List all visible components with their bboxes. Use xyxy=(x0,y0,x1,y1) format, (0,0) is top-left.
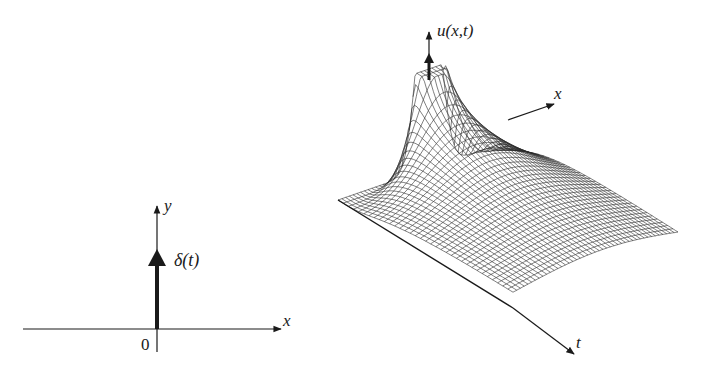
impulse-arrowhead-icon xyxy=(148,249,166,266)
mesh-line-t xyxy=(348,74,513,206)
t-axis-label: t xyxy=(576,333,582,352)
mesh-line-x xyxy=(466,130,641,239)
mesh-line-x xyxy=(481,144,656,236)
mesh-line-x xyxy=(436,67,611,247)
x-axis-3d xyxy=(508,104,554,120)
u-axis-label: u(x,t) xyxy=(437,21,474,40)
t-axis xyxy=(513,308,574,354)
mesh-line-x xyxy=(488,148,663,234)
origin-label: 0 xyxy=(141,335,150,354)
x-axis-label: x xyxy=(282,311,291,330)
mesh-line-x xyxy=(372,187,547,275)
surface-diagram: u(x,t) x t xyxy=(338,21,678,354)
mesh-line-x xyxy=(379,177,554,271)
mesh-line-x xyxy=(447,86,622,244)
mesh-line-t xyxy=(359,105,524,212)
y-axis-label: y xyxy=(162,196,172,215)
mesh-line-x xyxy=(361,192,536,280)
x-axis-3d-label: x xyxy=(553,84,562,103)
u-impulse-arrowhead-icon xyxy=(424,53,434,63)
mesh-line-x xyxy=(383,171,558,268)
surface-mesh xyxy=(338,65,678,308)
figure-canvas: x y 0 δ(t) u(x,t) x t xyxy=(0,0,701,371)
impulse-label: δ(t) xyxy=(174,250,199,271)
mesh-line-t xyxy=(338,65,503,200)
mesh-line-x xyxy=(349,196,524,286)
delta-diagram: x y 0 δ(t) xyxy=(23,196,291,354)
